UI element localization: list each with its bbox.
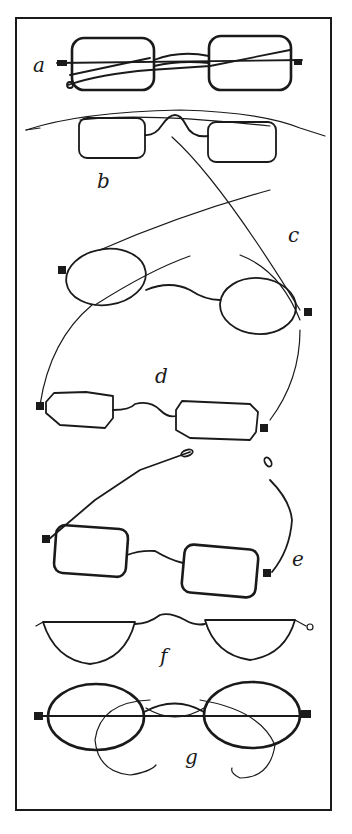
spectacles-f bbox=[36, 614, 313, 664]
spectacles-c bbox=[40, 190, 312, 420]
label-g: g bbox=[185, 745, 198, 769]
spectacles-d bbox=[36, 392, 268, 440]
label-a: a bbox=[33, 53, 45, 77]
spectacles-e bbox=[42, 448, 292, 598]
label-e: e bbox=[292, 547, 304, 571]
spectacles-illustration: a b c d bbox=[0, 0, 352, 834]
spectacles-b bbox=[26, 110, 325, 310]
label-f: f bbox=[158, 644, 171, 668]
label-c: c bbox=[288, 223, 299, 247]
label-d: d bbox=[155, 364, 168, 388]
label-b: b bbox=[97, 169, 110, 193]
spectacles-g bbox=[34, 682, 311, 778]
spectacles-a bbox=[57, 36, 302, 90]
